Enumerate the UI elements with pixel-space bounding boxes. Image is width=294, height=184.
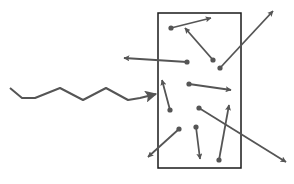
particle-trajectory-arrow xyxy=(199,108,286,162)
particle-dot xyxy=(186,81,191,86)
particle-dot xyxy=(196,105,201,110)
particle-trajectory-arrow xyxy=(219,105,229,160)
particle-dot xyxy=(193,124,198,129)
particle-trajectory-arrow xyxy=(171,18,211,28)
particle-trajectory-arrow xyxy=(124,58,187,62)
particle-trajectory-arrow xyxy=(220,11,273,68)
particle-dot xyxy=(217,65,222,70)
particle-dot xyxy=(168,25,173,30)
diagram-canvas xyxy=(0,0,294,184)
particle-dot xyxy=(210,57,215,62)
particle-dot xyxy=(167,107,172,112)
particle-dot xyxy=(184,59,189,64)
particle-dot xyxy=(176,126,181,131)
particle-dot xyxy=(216,157,221,162)
particle-group xyxy=(124,11,286,163)
particle-trajectory-arrow xyxy=(185,28,213,60)
incident-light-wave xyxy=(10,88,156,100)
particle-trajectory-arrow xyxy=(189,84,231,90)
particle-trajectory-arrow xyxy=(196,127,200,159)
particle-trajectory-arrow xyxy=(162,80,170,110)
particle-trajectory-arrow xyxy=(148,129,179,157)
